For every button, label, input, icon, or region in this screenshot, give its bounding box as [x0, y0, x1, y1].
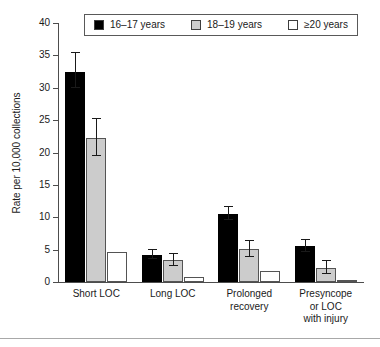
- y-axis-tick: 35: [53, 55, 58, 56]
- y-axis-tick-label: 35: [39, 50, 50, 60]
- error-bar-cap-upper: [224, 206, 233, 207]
- x-axis-label-line: Prolonged: [211, 288, 288, 301]
- y-axis-tick-label: 30: [39, 83, 50, 93]
- error-bar-cap-lower: [169, 265, 178, 266]
- error-bar-cap-lower: [71, 87, 80, 88]
- error-bar-cap-upper: [71, 52, 80, 53]
- bottom-divider: [0, 338, 380, 339]
- y-axis-tick: 15: [53, 185, 58, 186]
- y-axis-tick-label: 25: [39, 115, 50, 125]
- x-axis-label-line: recovery: [211, 301, 288, 314]
- bar: [86, 138, 106, 282]
- bar-group: [65, 23, 127, 282]
- error-bar-cap-lower: [322, 273, 331, 274]
- error-bar-cap-upper: [301, 239, 310, 240]
- error-bar-cap-lower: [245, 256, 254, 257]
- y-axis-tick-label: 40: [39, 18, 50, 28]
- y-axis-tick: 25: [53, 120, 58, 121]
- bar: [65, 72, 85, 282]
- error-bar-line: [75, 53, 76, 87]
- error-bar-cap-upper: [148, 249, 157, 250]
- x-axis-label: Presyncopeor LOCwith injury: [288, 288, 365, 326]
- y-axis-line: [58, 23, 59, 283]
- bar: [260, 271, 280, 282]
- bar: [218, 214, 238, 282]
- x-axis-label-line: Short LOC: [58, 288, 135, 301]
- y-axis-tick-label: 5: [44, 245, 50, 255]
- y-axis-tick: 0: [53, 282, 58, 283]
- error-bar-cap-lower: [224, 219, 233, 220]
- x-axis-label-line: with injury: [288, 313, 365, 326]
- bar-group: [295, 23, 357, 282]
- y-axis-title: Rate per 10,000 collections: [8, 23, 24, 283]
- y-axis-tick: 5: [53, 250, 58, 251]
- x-axis-label: Prolongedrecovery: [211, 288, 288, 313]
- error-bar-cap-lower: [148, 258, 157, 259]
- bar-group: [142, 23, 204, 282]
- plot-area: 0510152025303540: [58, 23, 364, 283]
- error-bar-cap-lower: [92, 155, 101, 156]
- error-bar-cap-upper: [92, 118, 101, 119]
- x-axis-line: [58, 282, 364, 283]
- bar-chart-figure: 16–17 years 18–19 years ≥20 years Rate p…: [0, 0, 380, 347]
- y-axis-tick: 20: [53, 153, 58, 154]
- error-bar-cap-upper: [169, 253, 178, 254]
- bar-group: [218, 23, 280, 282]
- bar: [142, 255, 162, 282]
- y-axis-tick-label: 20: [39, 148, 50, 158]
- y-axis-tick: 40: [53, 23, 58, 24]
- y-axis-tick-label: 10: [39, 212, 50, 222]
- error-bar-cap-upper: [322, 260, 331, 261]
- bar: [337, 280, 357, 282]
- x-axis-label-line: Long LOC: [135, 288, 212, 301]
- error-bar-line: [249, 241, 250, 258]
- bar: [107, 252, 127, 282]
- x-axis-label-line: or LOC: [288, 301, 365, 314]
- x-axis-label: Short LOC: [58, 288, 135, 301]
- error-bar-line: [96, 119, 97, 156]
- error-bar-cap-lower: [301, 251, 310, 252]
- x-axis-label-line: Presyncope: [288, 288, 365, 301]
- x-axis-label: Long LOC: [135, 288, 212, 301]
- y-axis-tick-label: 15: [39, 180, 50, 190]
- error-bar-cap-upper: [245, 240, 254, 241]
- bar: [184, 277, 204, 282]
- y-axis-tick-label: 0: [44, 277, 50, 287]
- y-axis-tick: 10: [53, 217, 58, 218]
- y-axis-tick: 30: [53, 88, 58, 89]
- y-axis-title-container: Rate per 10,000 collections: [8, 23, 24, 283]
